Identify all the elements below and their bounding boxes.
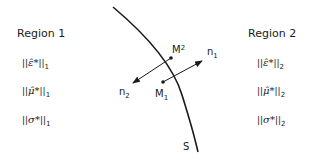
interface-diagram: M2 M1 n1 n2 S xyxy=(0,0,315,160)
surface-s-curve xyxy=(113,7,198,152)
normal-n2-arrow xyxy=(133,58,171,83)
m2-label: M2 xyxy=(172,44,185,55)
m1-label: M1 xyxy=(155,88,168,102)
point-m1 xyxy=(161,80,165,84)
point-m2 xyxy=(169,56,173,60)
normal-n1-arrow xyxy=(163,61,202,82)
n2-label: n2 xyxy=(119,86,130,100)
surface-s-label: S xyxy=(183,141,189,152)
n1-label: n1 xyxy=(207,46,218,60)
